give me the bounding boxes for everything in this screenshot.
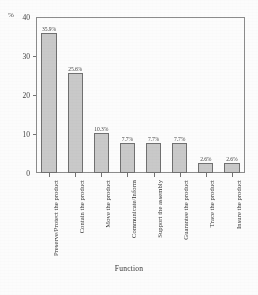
x-tick-mark <box>101 173 102 177</box>
x-category-label: Guarantee the product <box>182 180 189 240</box>
bar <box>94 133 109 173</box>
x-category-label: Support the assembly <box>156 180 163 238</box>
x-tick-mark <box>180 173 181 177</box>
bar-value-label: 2.6% <box>191 156 220 162</box>
x-category-label: Move the product <box>104 180 111 228</box>
bar <box>146 143 161 173</box>
bar <box>198 163 213 173</box>
x-tick-mark <box>154 173 155 177</box>
bar-chart: % 010203040 35.9%25.6%10.3%7.7%7.7%7.7%2… <box>0 0 258 295</box>
bar-series: 35.9%25.6%10.3%7.7%7.7%7.7%2.6%2.6% <box>36 17 245 173</box>
bar <box>68 73 83 173</box>
bar-value-label: 2.6% <box>217 156 246 162</box>
bar-group: 10.3% <box>94 17 109 173</box>
x-tick-mark <box>75 173 76 177</box>
bar <box>41 33 56 173</box>
bar-value-label: 7.7% <box>165 136 194 142</box>
bar-group: 2.6% <box>198 17 213 173</box>
bar <box>120 143 135 173</box>
x-category-label: Contain the product <box>78 180 85 233</box>
y-tick-label: 20 <box>8 92 30 99</box>
bar-value-label: 25.6% <box>61 66 90 72</box>
y-tick-label: 0 <box>8 170 30 177</box>
x-tick-mark <box>49 173 50 177</box>
x-axis-title: Function <box>0 264 258 273</box>
bar-value-label: 7.7% <box>113 136 142 142</box>
bar-value-label: 35.9% <box>34 26 63 32</box>
x-category-label: Preserve/Protect the product <box>52 180 59 256</box>
y-tick-label: 10 <box>8 131 30 138</box>
bar-group: 25.6% <box>68 17 83 173</box>
x-tick-mark <box>127 173 128 177</box>
bar-value-label: 10.3% <box>87 126 116 132</box>
y-tick-label: 40 <box>8 14 30 21</box>
x-category-label: Communicate/Inform <box>130 180 137 238</box>
bar <box>224 163 239 173</box>
bar-group: 2.6% <box>224 17 239 173</box>
bar-group: 7.7% <box>146 17 161 173</box>
bar-group: 35.9% <box>41 17 56 173</box>
bar-value-label: 7.7% <box>139 136 168 142</box>
x-category-label: Trace the product <box>208 180 215 227</box>
bar-group: 7.7% <box>120 17 135 173</box>
x-tick-mark <box>232 173 233 177</box>
x-tick-mark <box>206 173 207 177</box>
bar-group: 7.7% <box>172 17 187 173</box>
y-tick-label: 30 <box>8 53 30 60</box>
bar <box>172 143 187 173</box>
x-category-label: Insure the product <box>235 180 242 229</box>
